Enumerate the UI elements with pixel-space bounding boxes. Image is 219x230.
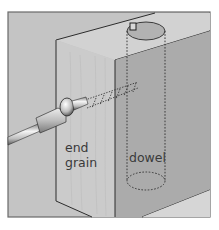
woodworking-illustration: end grain dowel [0,0,219,230]
dowel-marker [130,23,136,30]
block-side-face [115,31,210,217]
label-end: end [65,140,89,155]
screwdriver-ferrule [60,98,74,116]
block-front-face [56,40,115,217]
label-grain: grain [65,155,97,170]
diagram-canvas: end grain dowel [0,0,219,230]
label-dowel: dowel [129,150,166,165]
